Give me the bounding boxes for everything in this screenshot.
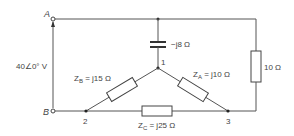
node-b-label: B: [43, 107, 49, 117]
node-2: [84, 109, 87, 112]
impedance-za-label: ZA = j10 Ω: [193, 70, 230, 80]
capacitor-label: −j8 Ω: [171, 40, 190, 49]
node-2-label: 2: [83, 117, 88, 126]
voltage-source-line: [51, 21, 55, 108]
impedance-zb-label: ZB = j15 Ω: [74, 74, 111, 84]
node-a-label: A: [43, 9, 50, 19]
impedance-zc-label: ZC = j25 Ω: [138, 121, 175, 131]
node-3: [226, 109, 229, 112]
resistor-10-ohm-label: 10 Ω: [264, 63, 281, 72]
impedance-zc: [142, 106, 172, 116]
resistor-10-ohm: [251, 19, 261, 111]
node-b-terminal: [51, 109, 55, 113]
arrow-up-icon: [51, 21, 55, 27]
circuit-diagram: A B 40∠0° V −j8 Ω 1 10 Ω ZB = j15 Ω: [0, 0, 294, 136]
node-1-label: 1: [161, 58, 166, 67]
node-3-label: 3: [226, 117, 231, 126]
node-a-terminal: [51, 17, 55, 21]
source-voltage-label: 40∠0° V: [16, 62, 48, 71]
